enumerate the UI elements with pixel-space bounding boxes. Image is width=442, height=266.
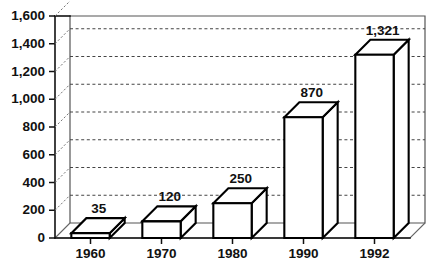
x-tick-label: 1990 xyxy=(288,246,318,261)
y-tick-depth-line xyxy=(55,112,70,127)
y-tick-label: 400 xyxy=(22,175,45,190)
y-tick-depth-line xyxy=(55,57,70,72)
bar xyxy=(213,188,266,238)
y-tick-label: 1,000 xyxy=(11,91,45,106)
y-tick-depth-line xyxy=(55,195,70,210)
y-tick-label: 0 xyxy=(37,230,45,245)
y-tick-label: 200 xyxy=(22,202,45,217)
floor-left-edge xyxy=(55,223,70,238)
chart-canvas: 02004006008001,0001,2001,4001,600 351202… xyxy=(0,0,442,266)
bar-front-face xyxy=(284,117,322,238)
y-tick-label: 1,400 xyxy=(11,36,45,51)
x-tick-labels: 19601970198019901992 xyxy=(75,246,389,261)
bars xyxy=(71,40,408,238)
y-tick-labels: 02004006008001,0001,2001,4001,600 xyxy=(11,8,45,245)
x-tick-label: 1980 xyxy=(217,246,247,261)
bar-value-label: 250 xyxy=(229,171,252,186)
y-tick-marks xyxy=(49,1,70,238)
y-tick-label: 600 xyxy=(22,147,45,162)
bar-front-face xyxy=(142,221,180,238)
bar xyxy=(71,218,124,238)
y-tick-depth-line xyxy=(55,84,70,99)
y-tick-label: 1,600 xyxy=(11,8,45,23)
y-tick-label: 800 xyxy=(22,119,45,134)
bar xyxy=(284,102,337,238)
bar-chart: 02004006008001,0001,2001,4001,600 351202… xyxy=(0,0,442,266)
x-tick-label: 1970 xyxy=(146,246,176,261)
y-tick-depth-line xyxy=(55,29,70,44)
bar xyxy=(142,206,195,238)
y-axis xyxy=(49,1,70,238)
bar-value-label: 870 xyxy=(300,85,323,100)
y-tick-label: 1,200 xyxy=(11,64,45,79)
bar-front-face xyxy=(355,55,393,238)
bar-value-labels: 351202508701,321 xyxy=(91,23,400,216)
y-tick-depth-line xyxy=(55,140,70,155)
bar xyxy=(355,40,408,238)
x-tick-label: 1992 xyxy=(359,246,389,261)
bar-front-face xyxy=(213,203,251,238)
y-tick-depth-line xyxy=(55,1,70,16)
bar-value-label: 35 xyxy=(91,201,107,216)
x-tick-label: 1960 xyxy=(75,246,105,261)
y-tick-depth-line xyxy=(55,168,70,183)
bar-side-face xyxy=(323,102,338,238)
bar-value-label: 120 xyxy=(158,189,181,204)
bar-value-label: 1,321 xyxy=(366,23,400,38)
bar-front-face xyxy=(71,233,109,238)
bar-side-face xyxy=(394,40,409,238)
